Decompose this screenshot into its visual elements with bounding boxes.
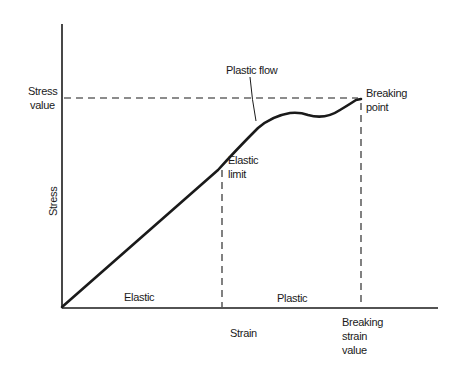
elastic-limit-label-line2: limit <box>228 168 246 180</box>
breaking-point-label-line1: Breaking <box>366 87 407 99</box>
stress-strain-curve <box>62 99 361 307</box>
region-elastic-label: Elastic <box>124 291 155 303</box>
stress-strain-diagram: Stress value Stress Plastic flow Breakin… <box>0 0 461 380</box>
plastic-flow-label: Plastic flow <box>226 64 278 76</box>
y-axis-label: Stress <box>47 186 59 216</box>
plastic-flow-pointer <box>250 77 256 121</box>
elastic-limit-label-line1: Elastic <box>228 154 259 166</box>
stress-value-label-line1: Stress <box>28 85 58 97</box>
breaking-strain-label-line1: Breaking <box>342 316 383 328</box>
breaking-point-label-line2: point <box>366 101 389 113</box>
breaking-strain-label-line3: value <box>342 344 367 356</box>
region-plastic-label: Plastic <box>277 292 308 304</box>
x-axis-label: Strain <box>230 327 257 339</box>
breaking-strain-label-line2: strain <box>342 330 367 342</box>
stress-value-label-line2: value <box>30 99 55 111</box>
